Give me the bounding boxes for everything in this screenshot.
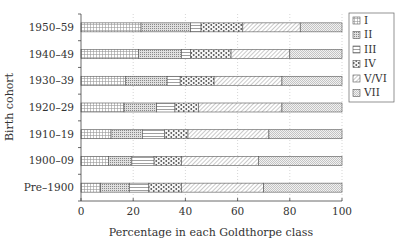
bar-segment-i xyxy=(81,23,141,32)
x-tick-label: 80 xyxy=(283,205,296,217)
bar-segment-v-vi xyxy=(181,156,258,165)
y-category-label: Pre–1900 xyxy=(24,181,74,193)
bar-segment-vii xyxy=(269,130,342,139)
legend: IIIIIIIVV/VIVII xyxy=(349,13,394,102)
bar-segment-iii xyxy=(132,156,154,165)
x-tick-label: 0 xyxy=(78,205,85,217)
bar-segment-ii xyxy=(141,23,191,32)
legend-swatch xyxy=(353,90,360,97)
bar-segment-iii xyxy=(191,23,201,32)
legend-label: VII xyxy=(363,86,380,98)
bar-segment-ii xyxy=(111,130,142,139)
y-category-label: 1900–09 xyxy=(29,154,74,166)
y-category-label: 1940–49 xyxy=(29,48,74,60)
bar-segment-v-vi xyxy=(243,23,300,32)
legend-label: V/VI xyxy=(363,72,387,84)
bars xyxy=(81,23,342,192)
x-tick-label: 60 xyxy=(231,205,244,217)
stacked-bar-chart: 1950–591940–491930–391920–291910–191900–… xyxy=(0,0,404,245)
y-ticks: 1950–591940–491930–391920–291910–191900–… xyxy=(24,14,81,201)
bar-segment-iv xyxy=(149,183,182,192)
bar-segment-i xyxy=(81,183,101,192)
bar-segment-vii xyxy=(264,183,342,192)
y-category-label: 1920–29 xyxy=(29,101,74,113)
bar-segment-v-vi xyxy=(198,103,282,112)
bar-segment-iii xyxy=(157,103,175,112)
bar-row xyxy=(81,130,342,139)
bar-segment-iv xyxy=(175,103,198,112)
bar-segment-iv xyxy=(180,76,214,85)
bar-segment-v-vi xyxy=(214,76,282,85)
bar-segment-v-vi xyxy=(181,183,263,192)
bar-row xyxy=(81,76,342,85)
bar-segment-vii xyxy=(282,76,342,85)
x-tick-label: 40 xyxy=(179,205,192,217)
bar-segment-iii xyxy=(129,183,149,192)
bar-row xyxy=(81,183,342,192)
bar-row xyxy=(81,156,342,165)
bar-segment-iv xyxy=(191,50,231,59)
y-category-label: 1950–59 xyxy=(29,21,74,33)
bar-segment-iv xyxy=(201,23,243,32)
bar-segment-ii xyxy=(125,76,167,85)
bar-segment-ii xyxy=(108,156,131,165)
bar-row xyxy=(81,103,342,112)
bar-segment-ii xyxy=(124,103,157,112)
bar-segment-i xyxy=(81,130,111,139)
y-category-label: 1910–19 xyxy=(29,128,74,140)
bar-segment-iii xyxy=(181,50,190,59)
bar-segment-v-vi xyxy=(188,130,269,139)
bar-segment-vii xyxy=(282,103,342,112)
bar-segment-i xyxy=(81,103,124,112)
bar-segment-iv xyxy=(165,130,188,139)
bar-segment-vii xyxy=(300,23,342,32)
y-axis-title: Birth cohort xyxy=(3,72,16,141)
x-tick-label: 100 xyxy=(332,205,352,217)
bar-segment-iv xyxy=(154,156,181,165)
legend-swatch xyxy=(353,61,360,68)
legend-swatch xyxy=(353,75,360,82)
legend-label: I xyxy=(364,14,368,26)
bar-segment-ii xyxy=(138,50,181,59)
bar-row xyxy=(81,50,342,59)
bar-segment-vii xyxy=(290,50,342,59)
legend-label: II xyxy=(364,28,372,40)
legend-swatch xyxy=(353,32,360,39)
bar-row xyxy=(81,23,342,32)
x-axis-title: Percentage in each Goldthorpe class xyxy=(109,226,314,239)
legend-swatch xyxy=(353,17,360,24)
x-tick-label: 20 xyxy=(127,205,140,217)
bar-segment-v-vi xyxy=(231,50,290,59)
bar-segment-iii xyxy=(142,130,164,139)
bar-segment-i xyxy=(81,76,125,85)
bar-segment-i xyxy=(81,156,108,165)
bar-segment-i xyxy=(81,50,138,59)
bar-segment-ii xyxy=(101,183,130,192)
bar-segment-vii xyxy=(258,156,342,165)
legend-swatch xyxy=(353,46,360,53)
legend-label: IV xyxy=(364,57,376,69)
y-category-label: 1930–39 xyxy=(29,74,74,86)
bar-segment-iii xyxy=(167,76,180,85)
legend-label: III xyxy=(364,43,376,55)
